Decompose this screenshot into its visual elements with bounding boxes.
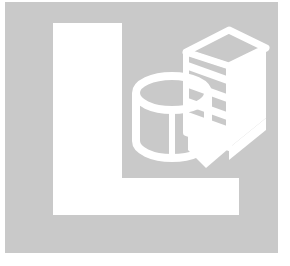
logo-artwork [0, 0, 290, 266]
logo-canvas: L monogram with database cylinder and se… [0, 0, 290, 266]
